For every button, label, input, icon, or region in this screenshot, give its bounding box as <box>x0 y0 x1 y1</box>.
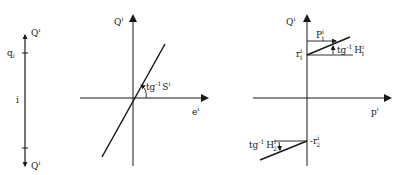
y-axis-label: Qi <box>286 15 295 27</box>
top-force-label: Qi <box>31 26 40 38</box>
node-label: qi <box>7 48 15 59</box>
plastic-hardening-plot: Qi pi Pi1 ri1 tg-1Hi1 -ri2 tg-1Hi2 <box>249 15 390 166</box>
element-label: i <box>16 95 19 105</box>
element-panel: Qi qi i Qi <box>7 26 40 171</box>
h2-angle-arc <box>279 142 280 150</box>
p1-label: Pi1 <box>316 28 325 42</box>
r1-label: ri1 <box>296 47 303 61</box>
h2-label: tg-1Hi2 <box>249 138 277 152</box>
x-axis-label: ei <box>192 105 199 117</box>
r2-label: -ri2 <box>310 134 320 148</box>
bottom-force-label: Qi <box>31 159 40 171</box>
linear-stiffness-plot: Qi ei tg-1Si <box>80 15 207 166</box>
x-axis-label: pi <box>371 105 379 117</box>
slope-label: tg-1Si <box>146 80 170 92</box>
diagram-canvas: Qi qi i Qi Qi ei tg-1Si Qi pi Pi1 ri1 tg… <box>0 0 406 175</box>
y-axis-label: Qi <box>114 15 123 27</box>
